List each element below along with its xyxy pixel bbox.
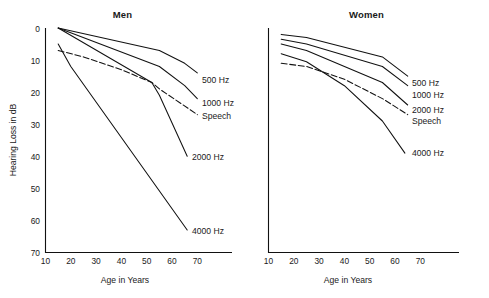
panel-women: Women 10 20 30 40 50 60 70 Age in Years … — [244, 0, 489, 298]
xtick-70: 70 — [193, 256, 203, 266]
ytick-30: 30 — [31, 120, 41, 130]
xtick-50: 50 — [142, 256, 152, 266]
curve-women-2000hz — [281, 44, 408, 105]
curve-men-speech — [58, 51, 197, 115]
curve-women-1000hz — [281, 39, 408, 85]
curve-men-4000hz — [58, 44, 187, 230]
curve-men-2000hz — [58, 28, 187, 156]
ytick-20: 20 — [31, 88, 41, 98]
label-men-500hz: 500 Hz — [202, 75, 229, 85]
xtick-30: 30 — [91, 256, 101, 266]
ytick-50: 50 — [31, 184, 41, 194]
curve-men-1000hz — [58, 28, 197, 99]
xtick-w-50: 50 — [365, 256, 375, 266]
label-women-4000hz: 4000 Hz — [412, 148, 444, 158]
xaxis-title-men: Age in Years — [101, 275, 149, 285]
label-women-1000hz: 1000 Hz — [412, 90, 444, 100]
ytick-10: 10 — [31, 56, 41, 66]
ytick-40: 40 — [31, 152, 41, 162]
axis-women — [269, 28, 460, 253]
xtick-w-60: 60 — [390, 256, 400, 266]
plot-women: 10 20 30 40 50 60 70 Age in Years 500 Hz… — [244, 0, 489, 298]
ytick-70: 70 — [31, 248, 41, 258]
curve-women-4000hz — [281, 54, 405, 153]
xtick-w-40: 40 — [340, 256, 350, 266]
panel-men: Men 0 10 20 30 40 50 60 70 10 20 30 40 5… — [0, 0, 245, 298]
curve-men-500hz — [58, 28, 197, 73]
axis-men — [46, 28, 233, 253]
xtick-20: 20 — [66, 256, 76, 266]
ytick-0: 0 — [35, 24, 40, 34]
label-men-4000hz: 4000 Hz — [192, 226, 224, 236]
figure-root: Men 0 10 20 30 40 50 60 70 10 20 30 40 5… — [0, 0, 489, 298]
xaxis-title-women: Age in Years — [324, 275, 372, 285]
xtick-w-70: 70 — [416, 256, 426, 266]
label-men-1000hz: 1000 Hz — [202, 98, 234, 108]
yaxis-title-men: Hearing Loss in dB — [8, 103, 18, 176]
xtick-w-10: 10 — [264, 256, 274, 266]
xtick-w-30: 30 — [314, 256, 324, 266]
xtick-60: 60 — [167, 256, 177, 266]
label-men-2000hz: 2000 Hz — [192, 152, 224, 162]
xtick-40: 40 — [117, 256, 127, 266]
xtick-10: 10 — [41, 256, 51, 266]
label-women-2000hz: 2000 Hz — [412, 105, 444, 115]
label-women-speech: Speech — [412, 116, 441, 126]
xtick-w-20: 20 — [289, 256, 299, 266]
label-men-speech: Speech — [202, 111, 231, 121]
label-women-500hz: 500 Hz — [412, 78, 439, 88]
plot-men: 0 10 20 30 40 50 60 70 10 20 30 40 50 60… — [0, 0, 245, 298]
ytick-60: 60 — [31, 216, 41, 226]
